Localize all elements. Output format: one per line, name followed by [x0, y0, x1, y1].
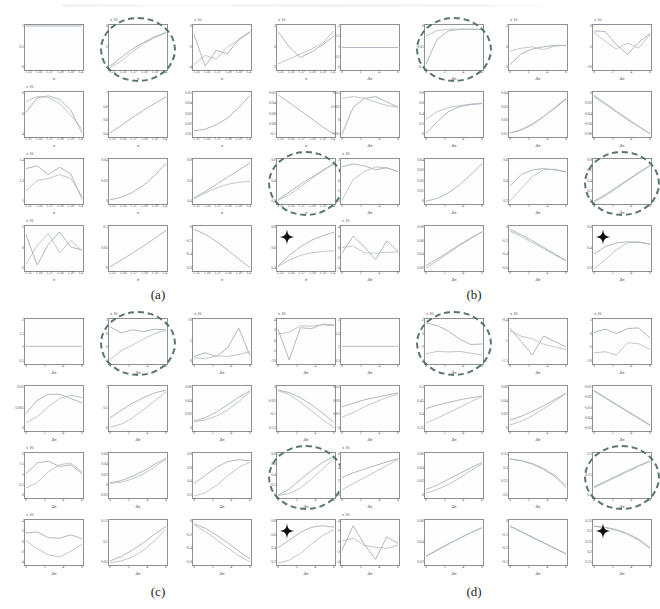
plot-axes[interactable]: 0.10.0501.351.361.371.381.391.4n: [108, 225, 168, 272]
x-tick-label: 1.38: [141, 138, 148, 142]
x-axis-ticks: 0246: [25, 432, 83, 436]
plot-axes[interactable]: 0-0.1-0.2-0.30246Δn: [508, 519, 568, 566]
plot-axes[interactable]: 0-0.2-0.4-0.60246Δn: [508, 225, 568, 272]
x-tick-label: 2: [360, 566, 362, 570]
y-tick-label: -4: [105, 66, 108, 70]
plot-axes[interactable]: 0.350.30.250.20.150246Δn: [592, 519, 652, 566]
y-tick-label: -0.1: [270, 413, 276, 417]
plot-axes[interactable]: x 108641.351.361.371.381.391.4n: [24, 91, 84, 138]
plot-axes[interactable]: 0.80.60.40.200246Δn: [592, 158, 652, 205]
plot-axes[interactable]: 0.060.040.0200246Δn: [508, 385, 568, 432]
plot-axes[interactable]: x 10420-2-40246Δn: [24, 519, 84, 566]
x-tick-label: 4: [146, 365, 148, 369]
y-tick-label: 1.2: [19, 180, 24, 184]
plot-axes[interactable]: x 10-0.4-1-1.50246Δn: [508, 318, 568, 365]
x-axis-ticks: 0246: [25, 566, 83, 570]
x-axis-ticks: 0246: [193, 365, 251, 369]
x-tick-label: 1.38: [225, 71, 232, 75]
plot-axes[interactable]: x 100-2-41.351.361.371.381.391.4n: [192, 24, 252, 71]
plot-axes[interactable]: x 100-5-100246Δn: [592, 24, 652, 71]
x-tick-label: 1.36: [204, 272, 211, 276]
x-axis-label: Δn: [593, 277, 651, 282]
plot-axes[interactable]: x 1020-2-40246Δn: [424, 318, 484, 365]
x-tick-label: 0: [341, 365, 343, 369]
plot-axes[interactable]: 10.80.60.41.351.361.371.381.391.4n: [108, 91, 168, 138]
plot-axes[interactable]: 0.080.060.040.020246Δn: [424, 225, 484, 272]
plot-axes[interactable]: 0-0.02-0.04-0.06-0.080246Δn: [592, 91, 652, 138]
y-tick-label: 0.04: [417, 467, 424, 471]
plot-axes[interactable]: 0.80.60.41.351.361.371.381.391.4n: [192, 158, 252, 205]
y-tick-label: 0.1: [587, 494, 592, 498]
plot-axes[interactable]: 0.040.030.020.010246Δn: [508, 91, 568, 138]
y-tick-label: 0.05: [101, 561, 108, 565]
plot-axes[interactable]: 0.050.040.030.020.011.351.361.371.381.39…: [192, 91, 252, 138]
y-axis-exponent: x 10: [510, 17, 517, 22]
x-tick-label: 4: [546, 365, 548, 369]
x-tick-label: 2: [612, 365, 614, 369]
plot-axes[interactable]: 0-0.2-0.4-0.61.351.361.371.381.391.4n: [192, 225, 252, 272]
y-axis-ticks: 10.50: [10, 25, 25, 70]
y-axis-ticks: 0.050.040.030.020.01: [178, 92, 193, 137]
plot-axes[interactable]: x 101.41.211.351.361.371.381.391.4n: [24, 158, 84, 205]
x-axis-label: Δn: [425, 437, 483, 442]
x-tick-label: 4: [378, 365, 380, 369]
plot-axes[interactable]: 0.60.40.20246Δn: [592, 225, 652, 272]
plot-axes[interactable]: 0.060.040.0200246Δn: [424, 452, 484, 499]
y-tick-label: 0.4: [419, 413, 424, 417]
plot-axes[interactable]: 21.510.50246Δn: [24, 318, 84, 365]
y-axis-ticks: 0.010.0050-0.01: [326, 92, 341, 137]
plot-axes[interactable]: 0.040.0201.351.361.371.381.391.4n: [108, 158, 168, 205]
plot-axes[interactable]: 0.010.00500246Δn: [24, 385, 84, 432]
y-tick-label: 0.3: [587, 530, 592, 534]
plot-axes[interactable]: 0.80.60.40.20246Δn: [192, 452, 252, 499]
plot-axes[interactable]: 0.80.60.40.200246Δn: [424, 91, 484, 138]
y-tick-label: 0.4: [187, 200, 192, 204]
plot-axes[interactable]: x 100-2-41.351.361.371.381.391.4n: [108, 24, 168, 71]
data-series-line: [510, 459, 566, 485]
plot-grid-a: 10.501.351.361.371.381.391.4nx 100-2-41.…: [0, 12, 316, 304]
plot-axes[interactable]: x 1010500246Δn: [192, 318, 252, 365]
x-tick-label: 0: [277, 365, 279, 369]
x-axis-label: Δn: [341, 571, 399, 576]
plot-axes[interactable]: 0.150.10.050246Δn: [108, 519, 168, 566]
plot-axes[interactable]: x 10210-1-20246Δn: [340, 158, 400, 205]
plot-axes[interactable]: x 1064200246Δn: [340, 452, 400, 499]
x-tick-label: 1.38: [309, 138, 316, 142]
x-tick-label: 2: [360, 205, 362, 209]
plot-axes[interactable]: 0-0.05-0.10246Δn: [424, 24, 484, 71]
plot-axes[interactable]: 21.510.50246Δn: [340, 318, 400, 365]
plot-axes[interactable]: x 10420-2-40246Δn: [340, 225, 400, 272]
x-axis-ticks: 0246: [425, 566, 483, 570]
plot-axes[interactable]: -0.01-0.02-0.03-0.04-0.050246Δn: [592, 385, 652, 432]
x-tick-label: 6: [565, 365, 567, 369]
plot-axes[interactable]: x 1021.510.500246Δn: [24, 452, 84, 499]
plot-axes[interactable]: 0.50.450.40.350246Δn: [424, 385, 484, 432]
plot-axes[interactable]: 0.20.150.10246Δn: [592, 452, 652, 499]
plot-axes[interactable]: 21.510.500246Δn: [340, 24, 400, 71]
plot-axes[interactable]: x 1050-5-100246Δn: [592, 318, 652, 365]
plot-axes[interactable]: x 1020-20246Δn: [508, 24, 568, 71]
x-tick-label: 1.4: [162, 205, 167, 209]
plot-axes[interactable]: x 1020-2-40246Δn: [108, 318, 168, 365]
x-axis-label: Δn: [509, 504, 567, 509]
x-tick-label: 2: [128, 566, 130, 570]
plot-axes[interactable]: 0.350.30.250.20246Δn: [508, 452, 568, 499]
x-tick-label: 1.4: [162, 272, 167, 276]
plot-axes[interactable]: x 1020-21.351.361.371.381.391.4n: [24, 225, 84, 272]
plot-axes[interactable]: x 10420-2-40246Δn: [340, 519, 400, 566]
x-tick-label: 2: [444, 138, 446, 142]
plot-axes[interactable]: 0.030.020.0100246Δn: [340, 385, 400, 432]
plot-axes[interactable]: 10.500246Δn: [108, 385, 168, 432]
plot-axes[interactable]: 0.040.030.020.0100246Δn: [424, 158, 484, 205]
x-tick-label: 1.35: [193, 205, 200, 209]
y-tick-label: 0.02: [417, 267, 424, 271]
plot-axes[interactable]: 0-0.2-0.4-0.60246Δn: [192, 519, 252, 566]
plot-axes[interactable]: 0.060.040.020246Δn: [424, 519, 484, 566]
plot-axes[interactable]: 0.010.0050-0.010246Δn: [340, 91, 400, 138]
plot-axes[interactable]: 0.060.040.0200246Δn: [192, 385, 252, 432]
plot-axes[interactable]: 0.60.40.20246Δn: [508, 158, 568, 205]
plot-axes[interactable]: 10.501.351.361.371.381.391.4n: [24, 24, 84, 71]
x-tick-label: 1.38: [141, 205, 148, 209]
y-tick-label: 0.6: [103, 119, 108, 123]
plot-axes[interactable]: 0.060.040.020-0.020246Δn: [108, 452, 168, 499]
